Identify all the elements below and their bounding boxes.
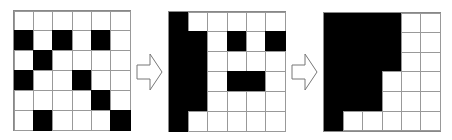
grid-cell: [72, 110, 92, 131]
grid-cell: [52, 70, 72, 91]
grid-cell: [14, 70, 34, 91]
grid-cell: [188, 71, 208, 92]
grid-cell: [52, 30, 72, 51]
grid-cell: [14, 30, 34, 51]
arrow-right-icon: [291, 53, 319, 91]
grid-cell: [324, 111, 344, 132]
grid-cell: [91, 30, 111, 51]
grid-cell: [91, 70, 111, 91]
grid-cell: [14, 11, 34, 32]
grid-cell: [382, 13, 402, 34]
grid-cell: [207, 51, 227, 72]
grid-cell: [420, 52, 440, 73]
grid-cell: [227, 31, 247, 52]
grid-cell: [91, 11, 111, 32]
grid-cell: [362, 32, 382, 53]
grid-cell: [169, 91, 189, 112]
grid-cell: [207, 31, 227, 52]
grid-cell: [324, 52, 344, 73]
grid-cell: [362, 91, 382, 112]
grid-cell: [343, 13, 363, 34]
grid-cell: [420, 32, 440, 53]
grid-cell: [420, 71, 440, 92]
grid-cell: [265, 71, 285, 92]
grid-cell: [110, 90, 130, 111]
grid-cell: [14, 50, 34, 71]
grid-cell: [188, 111, 208, 132]
grid-cell: [265, 51, 285, 72]
grid-cell: [91, 50, 111, 71]
grid-cell: [324, 32, 344, 53]
grid-step-1: [13, 10, 131, 131]
grid-cell: [265, 91, 285, 112]
grid-cell: [110, 70, 130, 91]
grid-cell: [188, 51, 208, 72]
grid-cell: [91, 110, 111, 131]
grid-cell: [110, 11, 130, 32]
grid-step-2: [168, 11, 286, 132]
grid-cell: [52, 50, 72, 71]
grid-cell: [227, 12, 247, 33]
grid-cell: [246, 111, 266, 132]
grid-cell: [343, 32, 363, 53]
grid-cell: [420, 91, 440, 112]
arrow-right-icon: [136, 53, 164, 91]
grid-cell: [33, 11, 53, 32]
grid-cell: [72, 50, 92, 71]
grid-cell: [382, 52, 402, 73]
grid-cell: [362, 71, 382, 92]
grid-cell: [14, 90, 34, 111]
grid-cell: [343, 91, 363, 112]
grid-cell: [33, 30, 53, 51]
grid-cell: [169, 31, 189, 52]
grid-cell: [324, 71, 344, 92]
grid-cell: [343, 71, 363, 92]
grid-cell: [169, 111, 189, 132]
grid-cell: [72, 70, 92, 91]
grid-cell: [33, 90, 53, 111]
grid-cell: [246, 31, 266, 52]
grid-cell: [265, 111, 285, 132]
grid-cell: [33, 70, 53, 91]
grid-cell: [110, 110, 130, 131]
grid-cell: [52, 90, 72, 111]
grid-cell: [246, 51, 266, 72]
grid-cell: [207, 71, 227, 92]
grid-cell: [14, 110, 34, 131]
grid-cell: [382, 32, 402, 53]
grid-cell: [207, 111, 227, 132]
grid-cell: [227, 91, 247, 112]
grid-cell: [343, 52, 363, 73]
grid-cell: [324, 91, 344, 112]
grid-cell: [382, 111, 402, 132]
grid-cell: [227, 111, 247, 132]
grid-cell: [246, 91, 266, 112]
grid-cell: [110, 50, 130, 71]
grid-cell: [246, 71, 266, 92]
grid-cell: [401, 32, 421, 53]
grid-cell: [362, 111, 382, 132]
grid-cell: [207, 91, 227, 112]
grid-cell: [401, 91, 421, 112]
grid-cell: [169, 51, 189, 72]
grid-cell: [401, 52, 421, 73]
grid-cell: [246, 12, 266, 33]
grid-cell: [401, 71, 421, 92]
grid-cell: [362, 13, 382, 34]
grid-cell: [91, 90, 111, 111]
grid-cell: [227, 51, 247, 72]
grid-cell: [401, 111, 421, 132]
grid-cell: [169, 12, 189, 33]
grid-cell: [72, 30, 92, 51]
grid-cell: [33, 50, 53, 71]
grid-cell: [110, 30, 130, 51]
grid-cell: [382, 71, 402, 92]
grid-cell: [382, 91, 402, 112]
grid-cell: [324, 13, 344, 34]
grid-cell: [207, 12, 227, 33]
grid-cell: [188, 31, 208, 52]
grid-cell: [188, 91, 208, 112]
grid-cell: [227, 71, 247, 92]
grid-cell: [33, 110, 53, 131]
grid-cell: [169, 71, 189, 92]
